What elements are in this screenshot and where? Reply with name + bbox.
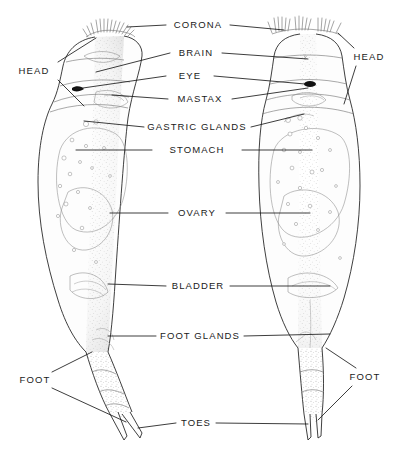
label-gastric-glands: GASTRIC GLANDS (147, 121, 246, 132)
anatomy-illustration: CORONA BRAIN EYE MASTAX GASTRIC GLANDS S… (0, 0, 396, 450)
label-corona: CORONA (174, 19, 222, 30)
label-head-right: HEAD (354, 51, 385, 62)
label-foot-glands: FOOT GLANDS (160, 330, 240, 341)
label-eye: EYE (179, 70, 201, 81)
label-ovary: OVARY (178, 207, 216, 218)
label-head-left: HEAD (19, 65, 50, 76)
label-toes: TOES (181, 417, 211, 428)
label-foot-left: FOOT (20, 374, 51, 385)
right-gastric-gland-2 (298, 116, 302, 120)
right-eye-spot (304, 81, 316, 87)
label-stomach: STOMACH (169, 144, 224, 155)
label-brain: BRAIN (179, 47, 214, 58)
label-bladder: BLADDER (172, 280, 225, 291)
rotifer-anatomy-figure: CORONA BRAIN EYE MASTAX GASTRIC GLANDS S… (0, 0, 396, 450)
label-mastax: MASTAX (178, 93, 223, 104)
label-foot-right: FOOT (350, 371, 381, 382)
left-gastric-gland-1 (83, 121, 88, 126)
